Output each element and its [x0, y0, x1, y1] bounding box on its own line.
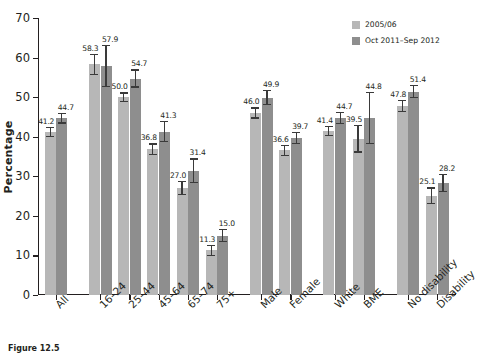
- error-cap-top: [207, 245, 215, 246]
- bar-no-disability-series-0: [397, 106, 408, 295]
- y-axis-tick-label: 70: [15, 11, 30, 25]
- error-cap-top: [427, 187, 435, 188]
- error-bar: [152, 143, 153, 155]
- error-cap-bottom: [427, 203, 435, 204]
- error-cap-bottom: [149, 154, 157, 155]
- error-bar: [442, 174, 443, 192]
- error-cap-bottom: [207, 255, 215, 256]
- bar-female-series-0: [279, 150, 290, 295]
- data-label: 46.0: [243, 97, 259, 106]
- bar-bme-series-0: [353, 139, 364, 295]
- data-label: 51.4: [410, 75, 426, 84]
- y-axis-tick-label: 30: [15, 169, 30, 183]
- error-cap-top: [410, 85, 418, 86]
- error-cap-top: [281, 145, 289, 146]
- bar-all-series-1: [56, 118, 67, 295]
- data-label: 58.3: [82, 44, 98, 53]
- error-cap-top: [190, 158, 198, 159]
- data-label: 41.4: [317, 116, 333, 125]
- data-label: 49.9: [263, 80, 279, 89]
- error-cap-top: [160, 121, 168, 122]
- error-cap-bottom: [102, 86, 110, 87]
- bar-65–74-series-1: [188, 171, 199, 295]
- error-cap-bottom: [336, 123, 344, 124]
- figure-caption: Figure 12.5: [8, 344, 458, 353]
- error-cap-top: [439, 174, 447, 175]
- bar-white-series-0: [323, 131, 334, 295]
- error-cap-bottom: [46, 136, 54, 137]
- error-bar: [369, 92, 370, 144]
- legend-item-oct-2011-sep-2012: Oct 2011–Sep 2012: [352, 36, 440, 45]
- bar-no-disability-series-1: [408, 92, 419, 295]
- error-cap-bottom: [178, 194, 186, 195]
- y-axis-label: Percentage: [2, 92, 15, 222]
- error-bar: [123, 92, 124, 101]
- data-label: 44.8: [366, 82, 382, 91]
- error-bar: [340, 112, 341, 124]
- error-cap-top: [398, 100, 406, 101]
- error-cap-top: [354, 125, 362, 126]
- data-label: 27.0: [170, 171, 186, 180]
- error-cap-top: [102, 45, 110, 46]
- y-axis-tick-label: 40: [15, 130, 30, 144]
- y-axis-label-wrapper: Percentage: [0, 18, 16, 295]
- error-cap-top: [366, 92, 374, 93]
- error-bar: [402, 100, 403, 112]
- error-cap-bottom: [251, 117, 259, 118]
- error-bar: [94, 54, 95, 75]
- y-axis-tick-label: 50: [15, 90, 30, 104]
- error-cap-top: [336, 112, 344, 113]
- bar-25–44-series-0: [118, 97, 129, 295]
- y-axis-tick-label: 60: [15, 51, 30, 65]
- error-cap-top: [251, 107, 259, 108]
- error-cap-bottom: [398, 111, 406, 112]
- error-cap-bottom: [90, 74, 98, 75]
- error-cap-bottom: [58, 122, 66, 123]
- error-cap-bottom: [410, 97, 418, 98]
- y-axis-tick-label: 0: [23, 288, 30, 302]
- bar-white-series-1: [335, 118, 346, 295]
- legend-label: 2005/06: [365, 20, 397, 29]
- error-bar: [50, 127, 51, 137]
- data-label: 54.7: [131, 59, 147, 68]
- error-bar: [357, 125, 358, 153]
- data-label: 47.8: [390, 90, 406, 99]
- error-cap-top: [178, 181, 186, 182]
- error-bar: [105, 45, 106, 87]
- data-label: 28.2: [439, 164, 455, 173]
- data-label: 44.7: [58, 103, 74, 112]
- y-axis-tick: [33, 295, 38, 296]
- bar-all-series-0: [45, 132, 56, 295]
- legend-swatch-icon: [352, 37, 360, 45]
- data-label: 39.5: [346, 115, 362, 124]
- figure-number: Figure 12.5: [8, 344, 60, 353]
- chart-legend: 2005/06 Oct 2011–Sep 2012: [352, 20, 440, 52]
- error-bar: [181, 181, 182, 195]
- data-label: 36.6: [273, 135, 289, 144]
- data-label: 11.3: [199, 235, 215, 244]
- error-bar: [61, 113, 62, 124]
- data-label: 41.3: [160, 111, 176, 120]
- bar-male-series-1: [262, 98, 273, 295]
- data-label: 15.0: [219, 219, 235, 228]
- error-bar: [164, 121, 165, 142]
- error-cap-top: [131, 69, 139, 70]
- error-cap-bottom: [366, 143, 374, 144]
- error-cap-bottom: [219, 241, 227, 242]
- data-label: 25.1: [419, 177, 435, 186]
- error-cap-bottom: [354, 151, 362, 152]
- error-bar: [222, 229, 223, 242]
- error-cap-bottom: [281, 155, 289, 156]
- error-cap-top: [149, 143, 157, 144]
- bar-male-series-0: [250, 113, 261, 295]
- bar-female-series-1: [291, 138, 302, 295]
- error-bar: [266, 90, 267, 106]
- data-label: 31.4: [190, 148, 206, 157]
- plot-area: 41.258.350.036.827.011.346.036.641.439.5…: [38, 18, 456, 295]
- data-label: 39.7: [292, 122, 308, 131]
- error-cap-bottom: [439, 191, 447, 192]
- error-cap-top: [292, 132, 300, 133]
- error-cap-top: [46, 127, 54, 128]
- error-cap-top: [219, 229, 227, 230]
